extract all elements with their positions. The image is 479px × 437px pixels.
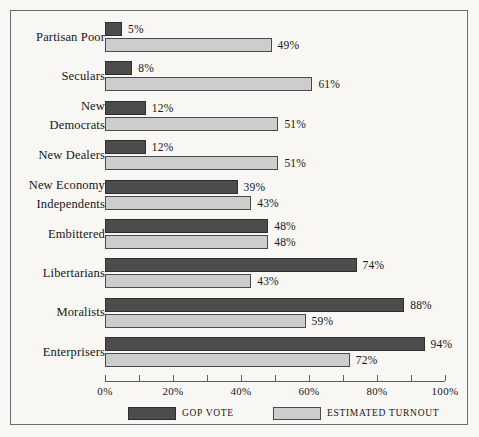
bar-value-estimated-turnout: 43% bbox=[257, 273, 279, 289]
bar-estimated-turnout bbox=[105, 196, 251, 210]
bar-estimated-turnout bbox=[105, 156, 278, 170]
bar-gop-vote bbox=[105, 140, 146, 154]
bar-estimated-turnout bbox=[105, 353, 350, 367]
bar-gop-vote bbox=[105, 180, 238, 194]
category-label: Enterprisers bbox=[0, 345, 105, 360]
legend-swatch-estimated-turnout bbox=[273, 407, 321, 420]
chart-figure: Partisan Poor5%49%Seculars8%61%NewDemocr… bbox=[0, 0, 479, 437]
category-label: New EconomyIndependents bbox=[0, 176, 105, 214]
category-label-line: New Dealers bbox=[0, 148, 105, 163]
bar-estimated-turnout bbox=[105, 274, 251, 288]
bar-gop-vote bbox=[105, 61, 132, 75]
category-label-line: Moralists bbox=[0, 305, 105, 320]
bar-value-estimated-turnout: 43% bbox=[257, 195, 279, 211]
bar-gop-vote bbox=[105, 22, 122, 36]
chart-legend: GOP VOTE ESTIMATED TURNOUT bbox=[105, 405, 445, 423]
x-axis-tick-label: 40% bbox=[211, 385, 271, 397]
category-label-line: Independents bbox=[0, 195, 105, 214]
bar-gop-vote bbox=[105, 258, 357, 272]
bar-value-estimated-turnout: 61% bbox=[318, 76, 340, 92]
category-label: Moralists bbox=[0, 305, 105, 320]
category-label: NewDemocrats bbox=[0, 97, 105, 135]
bar-value-gop-vote: 5% bbox=[128, 21, 144, 37]
bar-value-gop-vote: 88% bbox=[410, 297, 432, 313]
bar-estimated-turnout bbox=[105, 38, 272, 52]
legend-label-gop-vote: GOP VOTE bbox=[182, 408, 234, 418]
category-label-line: Democrats bbox=[0, 116, 105, 135]
bar-value-estimated-turnout: 49% bbox=[278, 37, 300, 53]
bar-estimated-turnout bbox=[105, 77, 312, 91]
category-label: Embittered bbox=[0, 227, 105, 242]
category-label-line: Seculars bbox=[0, 69, 105, 84]
bar-value-gop-vote: 74% bbox=[363, 257, 385, 273]
category-label: Partisan Poor bbox=[0, 30, 105, 45]
category-label-line: Embittered bbox=[0, 227, 105, 242]
x-axis-tick bbox=[445, 375, 446, 381]
category-label: New Dealers bbox=[0, 148, 105, 163]
category-label: Libertarians bbox=[0, 266, 105, 281]
bar-gop-vote bbox=[105, 337, 425, 351]
legend-item-gop-vote: GOP VOTE bbox=[128, 405, 234, 421]
bar-estimated-turnout bbox=[105, 117, 278, 131]
category-label-line: New bbox=[0, 97, 105, 116]
category-label: Seculars bbox=[0, 69, 105, 84]
bar-value-gop-vote: 39% bbox=[244, 179, 266, 195]
bar-value-gop-vote: 48% bbox=[274, 218, 296, 234]
bar-value-estimated-turnout: 59% bbox=[312, 313, 334, 329]
x-axis-tick-label: 80% bbox=[347, 385, 407, 397]
bar-value-gop-vote: 94% bbox=[431, 336, 453, 352]
legend-label-estimated-turnout: ESTIMATED TURNOUT bbox=[327, 408, 439, 418]
bar-value-gop-vote: 8% bbox=[138, 60, 154, 76]
bar-estimated-turnout bbox=[105, 235, 268, 249]
bar-gop-vote bbox=[105, 298, 404, 312]
bar-gop-vote bbox=[105, 101, 146, 115]
x-axis-tick-label: 0% bbox=[75, 385, 135, 397]
bar-value-estimated-turnout: 72% bbox=[356, 352, 378, 368]
x-axis-tick-label: 100% bbox=[415, 385, 475, 397]
category-label-line: Enterprisers bbox=[0, 345, 105, 360]
bar-value-gop-vote: 12% bbox=[152, 139, 174, 155]
bar-value-gop-vote: 12% bbox=[152, 100, 174, 116]
bar-gop-vote bbox=[105, 219, 268, 233]
category-label-line: Partisan Poor bbox=[0, 30, 105, 45]
category-label-line: Libertarians bbox=[0, 266, 105, 281]
x-axis-line bbox=[105, 381, 445, 382]
x-axis-tick-label: 60% bbox=[279, 385, 339, 397]
legend-item-estimated-turnout: ESTIMATED TURNOUT bbox=[273, 405, 439, 421]
bar-estimated-turnout bbox=[105, 314, 306, 328]
legend-swatch-gop-vote bbox=[128, 407, 176, 420]
category-label-line: New Economy bbox=[0, 176, 105, 195]
x-axis-tick-label: 20% bbox=[143, 385, 203, 397]
chart-plot-area: Partisan Poor5%49%Seculars8%61%NewDemocr… bbox=[0, 0, 479, 437]
bar-value-estimated-turnout: 51% bbox=[284, 155, 306, 171]
bar-value-estimated-turnout: 48% bbox=[274, 234, 296, 250]
bar-value-estimated-turnout: 51% bbox=[284, 116, 306, 132]
